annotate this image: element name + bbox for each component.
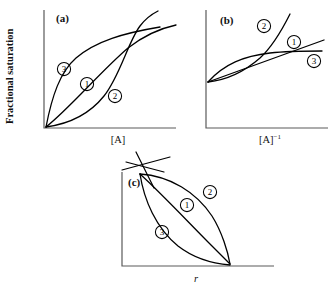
panel-b: (b) 2 1 3 [A]−1 r−1 xyxy=(178,0,332,148)
panel-c-marker-3: 3 xyxy=(155,225,168,238)
panel-a-xlabel: [A] xyxy=(111,134,126,145)
panel-a: (a) 3 1 2 [A] Fractional saturation xyxy=(0,0,180,148)
panel-c-marker-3-label: 3 xyxy=(160,227,165,237)
panel-b-xlabel: [A]−1 xyxy=(259,133,282,145)
panel-a-marker-2: 2 xyxy=(108,89,121,102)
panel-c-letter: (c) xyxy=(128,176,141,189)
panel-c-tangent-line-1 xyxy=(122,157,170,170)
binding-curves-figure: (a) 3 1 2 [A] Fractional saturation xyxy=(0,0,332,289)
panel-c-marker-2: 2 xyxy=(203,185,216,198)
panel-c-marker-1-label: 1 xyxy=(185,200,190,210)
panel-a-letter: (a) xyxy=(56,12,69,25)
panel-c-axes xyxy=(122,172,274,266)
panel-a-marker-3-label: 3 xyxy=(62,64,67,74)
panel-a-ylabel-line2: saturation xyxy=(4,28,15,74)
panel-b-xlabel-base: [A] xyxy=(259,134,274,145)
panel-b-marker-2-label: 2 xyxy=(262,21,267,31)
panel-b-axes xyxy=(206,10,328,128)
panel-c: (c) 2 1 3 r r/[A] xyxy=(78,148,278,289)
panel-b-marker-1: 1 xyxy=(287,35,300,48)
panel-c-plot: (c) 2 1 3 r xyxy=(78,148,278,289)
panel-c-marker-2-label: 2 xyxy=(208,187,213,197)
panel-b-curve-3 xyxy=(208,51,322,82)
panel-a-ylabel: Fractional saturation xyxy=(4,28,30,124)
panel-a-ylabel-line1: Fractional xyxy=(4,77,15,124)
panel-a-curve-1 xyxy=(46,25,176,127)
panel-b-xlabel-sup: −1 xyxy=(274,133,282,141)
panel-b-letter: (b) xyxy=(220,14,234,27)
panel-b-marker-3-label: 3 xyxy=(312,56,317,66)
panel-a-marker-3: 3 xyxy=(57,62,70,75)
panel-a-marker-1-label: 1 xyxy=(85,79,90,89)
panel-c-marker-1: 1 xyxy=(180,198,193,211)
panel-b-marker-1-label: 1 xyxy=(292,37,297,47)
panel-c-xlabel: r xyxy=(194,273,199,284)
panel-b-curve-1 xyxy=(208,40,324,82)
panel-b-marker-3: 3 xyxy=(307,54,320,67)
panel-b-plot: (b) 2 1 3 [A]−1 xyxy=(178,0,332,148)
panel-a-marker-2-label: 2 xyxy=(113,91,118,101)
panel-b-marker-2: 2 xyxy=(257,19,270,32)
